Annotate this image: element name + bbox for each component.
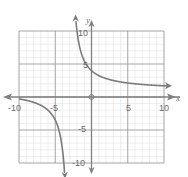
x-tick-neg5: -5 <box>50 103 58 113</box>
axes <box>3 20 180 174</box>
y-tick-neg5: -5 <box>78 124 86 134</box>
x-tick-neg10: -10 <box>8 103 21 113</box>
y-axis-label: y <box>85 15 90 25</box>
x-tick-10: 10 <box>159 103 169 113</box>
y-tick-5: 5 <box>83 60 88 70</box>
x-tick-5: 5 <box>126 103 131 113</box>
y-tick-10: 10 <box>78 28 88 38</box>
x-axis-label: x <box>175 93 180 103</box>
y-tick-neg10: -10 <box>72 158 85 168</box>
graph-canvas: -10 -5 5 10 10 5 -5 -10 x y <box>0 0 188 177</box>
right-branch-up-arrow-icon <box>72 15 79 22</box>
curves <box>19 15 172 177</box>
